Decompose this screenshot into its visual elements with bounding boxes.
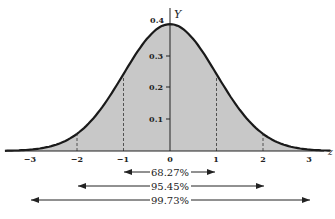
x-tick-neg3: −3 — [24, 154, 37, 164]
y-tick-0.3: 0.3 — [149, 51, 163, 61]
x-tick-0: 0 — [167, 154, 173, 164]
svg-text:68.27%: 68.27% — [151, 167, 189, 178]
x-tick-neg1: −1 — [117, 154, 129, 164]
y-tick-0.2: 0.2 — [149, 82, 163, 92]
normal-distribution-chart: 0.1 0.2 0.3 0.4 Y z −3 −2 −1 0 1 2 3 68.… — [0, 0, 335, 219]
y-tick-0.4: 0.4 — [150, 15, 164, 25]
x-tick-2: 2 — [260, 154, 266, 164]
shaded-area — [5, 24, 331, 151]
y-tick-0.1: 0.1 — [149, 114, 163, 124]
x-tick-neg2: −2 — [71, 154, 83, 164]
annotation-99: 99.73% — [31, 195, 310, 206]
svg-text:99.73%: 99.73% — [151, 195, 189, 206]
x-axis-label: z — [327, 147, 333, 157]
annotation-95: 95.45% — [78, 181, 264, 192]
x-tick-1: 1 — [213, 154, 219, 164]
x-tick-3: 3 — [306, 154, 312, 164]
svg-text:95.45%: 95.45% — [151, 181, 189, 192]
annotation-68: 68.27% — [124, 167, 215, 178]
y-axis-label: Y — [174, 8, 183, 21]
